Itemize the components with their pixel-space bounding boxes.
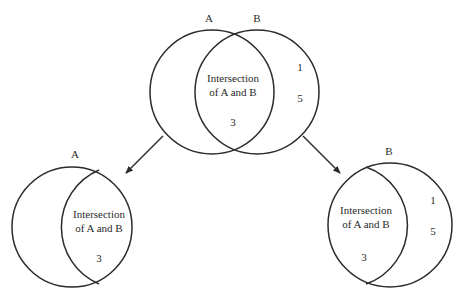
set-b-only-value-2: 5 (430, 225, 436, 237)
bottom-right-set-b: B Intersection of A and B 3 1 5 (328, 145, 452, 287)
set-a-intersection-value: 3 (96, 252, 102, 264)
set-b-intersection-value: 3 (361, 251, 367, 263)
set-a-intersection-title: Intersection (73, 208, 125, 220)
set-b-intersection-title: Intersection (340, 204, 392, 216)
top-intersection-subtitle: of A and B (209, 86, 256, 98)
arrow-to-set-b (303, 136, 340, 173)
set-b-label: B (385, 145, 392, 157)
set-b-intersection-subtitle: of A and B (342, 218, 389, 230)
set-b-only-value-1: 1 (430, 194, 436, 206)
top-intersection-title: Intersection (207, 72, 259, 84)
set-a-label: A (71, 148, 79, 160)
top-set-b-label: B (253, 12, 260, 24)
top-venn: A B Intersection of A and B 3 1 5 (150, 12, 319, 154)
top-b-only-value-2: 5 (297, 92, 303, 104)
top-intersection-value: 3 (230, 116, 236, 128)
top-set-a-label: A (205, 12, 213, 24)
bottom-left-set-a: A Intersection of A and B 3 (12, 148, 132, 287)
venn-diagram: A B Intersection of A and B 3 1 5 A Inte… (0, 0, 463, 299)
top-b-only-value-1: 1 (297, 61, 303, 73)
arrow-to-set-a (126, 136, 163, 173)
set-a-intersection-subtitle: of A and B (75, 222, 122, 234)
